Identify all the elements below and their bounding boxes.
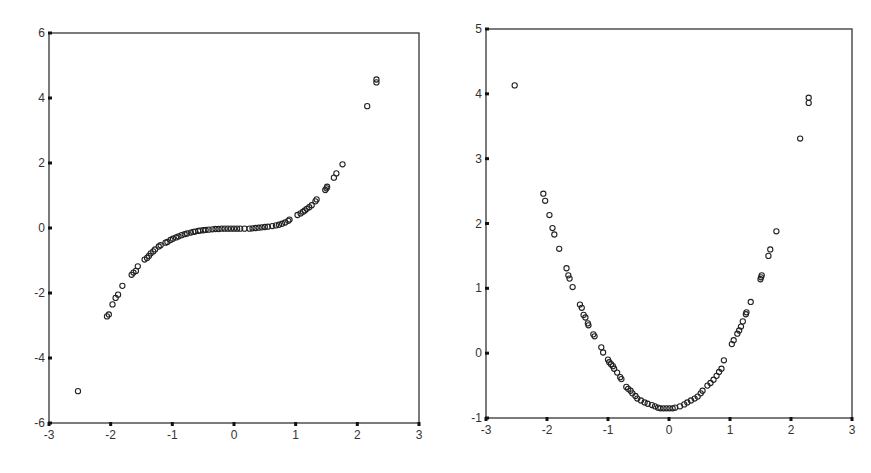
x-tick-label: 3 (849, 423, 856, 437)
data-point-marker (120, 283, 125, 288)
y-tick-label: 2 (475, 217, 482, 231)
x-tick-label: -1 (167, 428, 178, 442)
data-point-marker (365, 104, 370, 109)
x-axis: -3-2-10123 (481, 417, 856, 437)
data-point-marker (547, 212, 552, 217)
data-point-marker (774, 229, 779, 234)
x-tick-label: -2 (542, 423, 553, 437)
x-tick-label: 2 (354, 428, 361, 442)
data-points (75, 77, 379, 394)
x-tick-label: 1 (292, 428, 299, 442)
data-point-marker (766, 253, 771, 258)
y-tick-label: 5 (475, 22, 482, 36)
x-tick-label: -3 (481, 423, 492, 437)
data-point-marker (740, 319, 745, 324)
y-tick-label: 4 (38, 91, 45, 105)
plot-frame (49, 33, 419, 423)
data-point-marker (806, 95, 811, 100)
x-tick-label: -2 (105, 428, 116, 442)
y-tick-label: -1 (471, 411, 482, 425)
y-tick-label: 0 (475, 346, 482, 360)
y-tick-label: -2 (34, 286, 45, 300)
x-tick-label: 0 (231, 428, 238, 442)
data-point-marker (567, 276, 572, 281)
data-point-marker (798, 136, 803, 141)
data-points (512, 83, 811, 411)
data-point-marker (340, 162, 345, 167)
scatter-plot-right: -3-2-10123-1012345 (471, 22, 855, 437)
y-tick-label: -6 (34, 416, 45, 430)
data-point-marker (599, 345, 604, 350)
y-tick-label: 6 (38, 26, 45, 40)
data-point-marker (75, 389, 80, 394)
y-tick-label: -4 (34, 351, 45, 365)
data-point-marker (601, 350, 606, 355)
x-axis: -3-2-10123 (44, 422, 423, 442)
data-point-marker (564, 266, 569, 271)
y-tick-label: 1 (475, 281, 482, 295)
x-tick-label: -3 (44, 428, 55, 442)
data-point-marker (552, 232, 557, 237)
scatter-plot-left: -3-2-10123-6-4-20246 (34, 26, 422, 442)
y-tick-label: 4 (475, 87, 482, 101)
figure-canvas: -3-2-10123-6-4-20246 -3-2-10123-1012345 (0, 0, 871, 473)
y-tick-label: 2 (38, 156, 45, 170)
x-tick-label: 2 (788, 423, 795, 437)
data-point-marker (806, 100, 811, 105)
x-tick-label: 0 (666, 423, 673, 437)
y-tick-label: 0 (38, 221, 45, 235)
x-tick-label: 3 (416, 428, 423, 442)
plot-frame (486, 29, 852, 418)
x-tick-label: 1 (727, 423, 734, 437)
y-tick-label: 3 (475, 152, 482, 166)
data-point-marker (541, 191, 546, 196)
x-tick-label: -1 (603, 423, 614, 437)
data-point-marker (566, 273, 571, 278)
data-point-marker (110, 302, 115, 307)
data-point-marker (721, 358, 726, 363)
data-point-marker (543, 198, 548, 203)
data-point-marker (135, 264, 140, 269)
data-point-marker (550, 225, 555, 230)
data-point-marker (287, 217, 292, 222)
data-point-marker (768, 247, 773, 252)
data-point-marker (748, 299, 753, 304)
data-point-marker (334, 171, 339, 176)
data-point-marker (512, 83, 517, 88)
data-point-marker (557, 246, 562, 251)
data-point-marker (570, 284, 575, 289)
